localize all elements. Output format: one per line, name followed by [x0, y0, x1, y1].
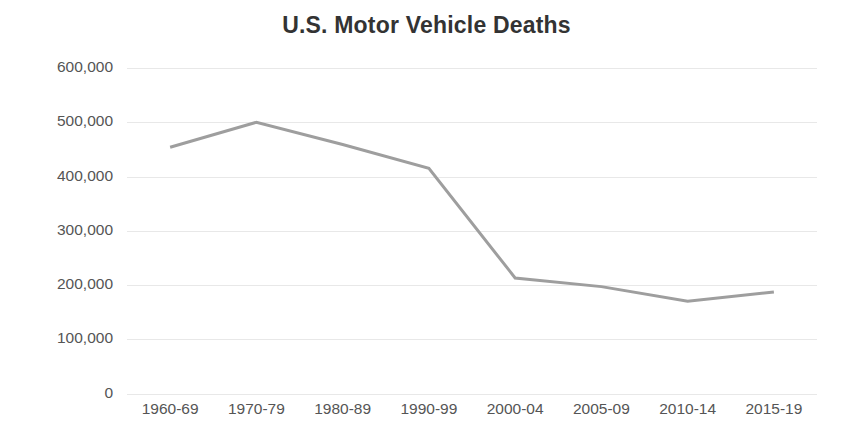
x-axis-tick-label: 2000-04 — [472, 400, 558, 430]
gridline — [127, 394, 817, 395]
chart-title: U.S. Motor Vehicle Deaths — [0, 12, 853, 39]
x-axis: 1960-691970-791980-891990-992000-042005-… — [127, 400, 817, 430]
x-axis-tick-label: 1980-89 — [300, 400, 386, 430]
x-axis-tick-label: 2005-09 — [558, 400, 644, 430]
y-axis-tick-label: 500,000 — [0, 112, 113, 130]
y-axis: 0100,000200,000300,000400,000500,000600,… — [0, 0, 120, 448]
x-axis-tick-label: 2015-19 — [731, 400, 817, 430]
x-axis-tick-label: 1970-79 — [213, 400, 299, 430]
y-axis-tick-label: 200,000 — [0, 275, 113, 293]
series-line-layer — [127, 68, 817, 394]
x-axis-tick-label: 1960-69 — [127, 400, 213, 430]
x-axis-tick-label: 1990-99 — [386, 400, 472, 430]
y-axis-tick-label: 100,000 — [0, 329, 113, 347]
y-axis-tick-label: 300,000 — [0, 221, 113, 239]
line-chart: U.S. Motor Vehicle Deaths 0100,000200,00… — [0, 0, 853, 448]
x-axis-tick-label: 2010-14 — [645, 400, 731, 430]
y-axis-tick-label: 400,000 — [0, 167, 113, 185]
y-axis-tick-label: 0 — [0, 384, 113, 402]
y-axis-tick-label: 600,000 — [0, 58, 113, 76]
series-line-us-motor-vehicle-deaths — [170, 122, 774, 301]
